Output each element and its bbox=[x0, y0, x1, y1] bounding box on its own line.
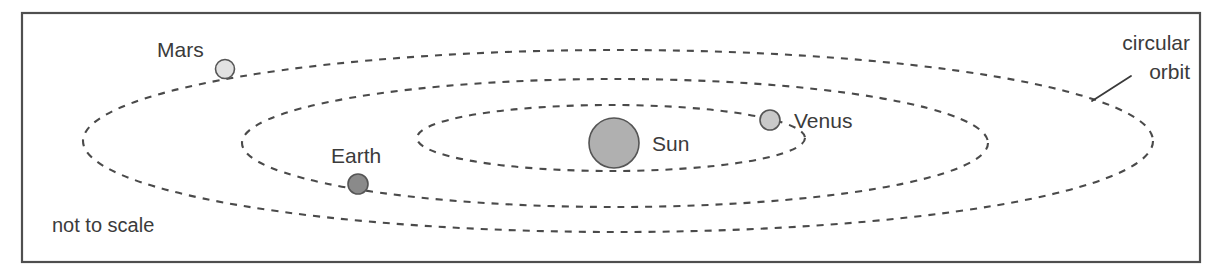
diagram-canvas: Mars Earth Sun Venus circular orbit not … bbox=[0, 0, 1219, 274]
mars-body bbox=[216, 60, 235, 79]
venus-body bbox=[760, 110, 780, 130]
not-to-scale-note: not to scale bbox=[52, 214, 154, 236]
solar-system-diagram: Mars Earth Sun Venus circular orbit not … bbox=[0, 0, 1219, 274]
sun-label: Sun bbox=[652, 132, 689, 155]
callout-label-line1: circular bbox=[1122, 31, 1190, 54]
callout-label-line2: orbit bbox=[1149, 60, 1190, 83]
venus-label: Venus bbox=[794, 109, 852, 132]
sun-body bbox=[589, 118, 639, 168]
earth-body bbox=[348, 174, 368, 194]
mars-label: Mars bbox=[157, 38, 204, 61]
earth-label: Earth bbox=[331, 144, 381, 167]
